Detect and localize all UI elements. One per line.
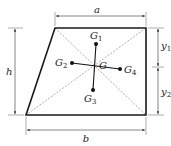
trapezoid-diagram: a b h y1 y2 G1 G2 G G4 G3 (0, 0, 171, 146)
label-g3: G3 (84, 93, 96, 106)
extension-lines (8, 12, 164, 135)
label-y1: y1 (160, 40, 171, 53)
point-g3 (91, 88, 95, 92)
label-g2: G2 (55, 57, 67, 70)
dimension-lines (15, 16, 158, 130)
label-y2: y2 (160, 86, 171, 99)
label-g: G (99, 60, 107, 71)
label-g4: G4 (124, 64, 137, 77)
label-h: h (6, 66, 12, 77)
point-g4 (118, 67, 122, 71)
label-b: b (83, 133, 89, 144)
label-a: a (94, 4, 100, 15)
label-g1: G1 (90, 30, 102, 43)
point-g2 (70, 61, 74, 65)
